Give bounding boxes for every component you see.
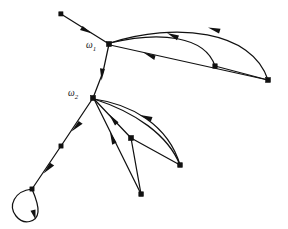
arrowhead-mid-right-arc — [167, 33, 179, 40]
vertex-left-chain — [59, 144, 63, 148]
vertex-omega-1 — [107, 42, 112, 47]
vertex-bottom — [139, 192, 144, 197]
vertex-omega-2 — [91, 96, 96, 101]
edge-lower-right-arc — [94, 99, 180, 165]
arrowhead-bottom-to-omega2 — [110, 132, 117, 145]
label-omega-1-subscript: 1 — [93, 45, 96, 52]
vertex-far-right — [266, 78, 271, 83]
edge-far-right-straight — [110, 45, 268, 80]
vertex-self-loop — [30, 187, 34, 191]
vertex-top-left-leaf — [59, 12, 63, 16]
edge-mid-to-far-right — [215, 66, 268, 80]
arrowhead-self-loop — [31, 210, 36, 220]
label-omega-2-subscript: 2 — [75, 93, 79, 100]
edge-mid-right-arc — [110, 37, 215, 66]
edge-omega2-to-left-chain — [61, 98, 93, 146]
arrowhead-lower-right-arc — [140, 115, 153, 122]
graph-figure: ω1 ω2 — [0, 0, 288, 229]
vertex-mid-right — [213, 64, 217, 68]
graph-canvas: ω1 ω2 — [0, 0, 288, 229]
label-omega-1: ω1 — [86, 40, 96, 52]
arrowhead-far-right-arc-upper — [208, 28, 221, 34]
vertex-lower-mid — [129, 136, 134, 141]
edge-bottom-to-omega2 — [94, 99, 141, 194]
edge-lower-mid-to-bottom — [131, 138, 141, 194]
edge-far-right-arc-upper — [110, 32, 268, 80]
label-omega-2: ω2 — [68, 88, 79, 100]
vertex-lower-right — [178, 163, 183, 168]
edge-lower-right-arc-back — [94, 99, 180, 165]
edge-left-chain-to-loop — [32, 146, 61, 189]
